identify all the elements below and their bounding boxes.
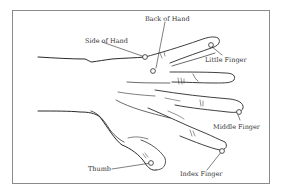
label-side-of-hand: Side of Hand — [85, 38, 128, 45]
label-index-finger: Index Finger — [180, 171, 222, 178]
point-middle-finger-icon — [237, 110, 242, 115]
point-thumb-icon — [149, 161, 154, 166]
label-thumb: Thumb — [88, 166, 111, 173]
label-back-of-hand: Back of Hand — [145, 16, 190, 23]
label-little-finger: Little Finger — [205, 57, 247, 64]
point-back-of-hand-icon — [151, 69, 156, 74]
point-little-finger-icon — [209, 43, 214, 48]
point-index-finger-icon — [220, 149, 225, 154]
label-middle-finger: Middle Finger — [213, 124, 260, 131]
hand-illustration — [0, 0, 281, 195]
point-side-of-hand-icon — [143, 55, 148, 60]
